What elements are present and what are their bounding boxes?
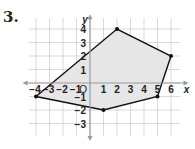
x-tick-label: 6	[168, 84, 174, 95]
vertex-point	[34, 95, 38, 99]
x-tick-label: 1	[101, 84, 107, 95]
y-tick-label: 2	[80, 51, 86, 62]
x-axis-arrow-left-icon	[23, 81, 28, 86]
vertex-point	[115, 27, 119, 31]
x-axis-label: x	[183, 84, 190, 95]
origin-label: O	[79, 84, 87, 95]
x-tick-label: −3	[43, 84, 55, 95]
coordinate-graph: −4−3−2−11234564321−1−2−3Oxy	[0, 0, 195, 149]
x-tick-label: 5	[155, 84, 161, 95]
y-tick-label: −2	[75, 105, 87, 116]
x-tick-label: 4	[141, 84, 147, 95]
vertex-point	[102, 108, 106, 112]
x-tick-label: 3	[128, 84, 134, 95]
x-tick-label: −4	[29, 84, 41, 95]
y-tick-label: 3	[80, 38, 86, 49]
y-tick-label: 4	[80, 24, 86, 35]
y-tick-label: −3	[75, 119, 87, 130]
x-tick-label: 2	[114, 84, 120, 95]
y-axis-arrow-down-icon	[88, 136, 93, 141]
y-tick-label: 1	[80, 65, 86, 76]
y-axis-label: y	[81, 14, 88, 25]
vertex-point	[169, 54, 173, 58]
x-tick-label: −2	[56, 84, 68, 95]
y-axis-arrow-icon	[88, 14, 93, 19]
vertex-point	[156, 95, 160, 99]
